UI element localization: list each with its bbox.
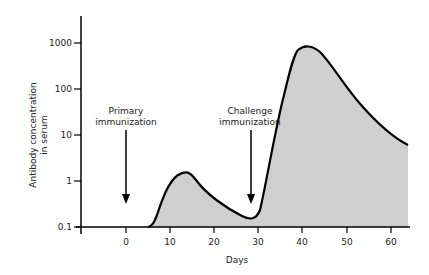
antibody-response-chart: 1000 100 10 1 0.1 0 10 20 30 40 50 60 Da… [0, 0, 429, 275]
x-axis-label: Days [226, 255, 249, 265]
y-axis-label: Antibody concentration in serum [28, 82, 49, 187]
x-tick-label: 60 [385, 237, 397, 247]
x-ticks [126, 227, 391, 233]
primary-immunization-annotation: Primary immunization [95, 106, 156, 204]
x-tick-label: 0 [123, 237, 129, 247]
arrowhead-icon [247, 194, 255, 204]
y-tick-label: 100 [55, 84, 72, 94]
challenge-annotation-line1: Challenge [228, 106, 273, 116]
y-tick-labels: 1000 100 10 1 0.1 [49, 38, 72, 232]
y-axis-label-line2: in serum [39, 115, 49, 154]
x-tick-label: 30 [252, 237, 264, 247]
x-tick-label: 50 [341, 237, 353, 247]
y-axis-label-line1: Antibody concentration [28, 82, 38, 187]
primary-annotation-line2: immunization [95, 117, 156, 127]
response-area [148, 46, 408, 227]
x-tick-labels: 0 10 20 30 40 50 60 [123, 237, 397, 247]
y-tick-label: 1000 [49, 38, 72, 48]
x-tick-label: 10 [164, 237, 176, 247]
y-tick-label: 0.1 [58, 222, 72, 232]
x-tick-label: 20 [208, 237, 220, 247]
x-tick-label: 40 [296, 237, 308, 247]
arrowhead-icon [122, 194, 130, 204]
y-tick-label: 10 [61, 130, 73, 140]
primary-annotation-line1: Primary [109, 106, 144, 116]
y-ticks [74, 43, 81, 227]
y-tick-label: 1 [66, 176, 72, 186]
challenge-annotation-line2: immunization [219, 117, 280, 127]
